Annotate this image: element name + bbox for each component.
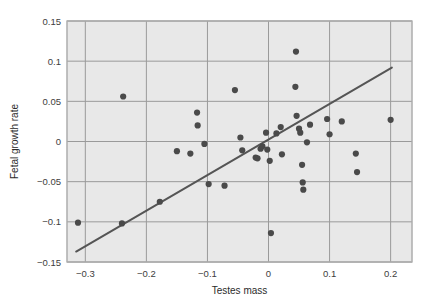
data-point [264, 146, 270, 152]
y-tick-label: 0.15 [43, 16, 62, 27]
y-tick-label: −0.05 [37, 176, 61, 187]
data-point [300, 187, 306, 193]
x-axis-title: Testes mass [212, 285, 268, 296]
data-point [157, 199, 163, 205]
data-point [120, 93, 126, 99]
y-tick-label: −0.15 [37, 257, 61, 268]
plot-area [67, 21, 412, 262]
data-point [326, 131, 332, 137]
x-tick-label: −0.1 [198, 268, 217, 279]
y-tick-label: 0.1 [48, 56, 61, 67]
data-point [194, 109, 200, 115]
data-point [353, 150, 359, 156]
data-point [206, 181, 212, 187]
data-point [324, 116, 330, 122]
x-tick-label: −0.2 [137, 268, 156, 279]
data-point [339, 118, 345, 124]
data-point [268, 230, 274, 236]
x-tick-label: −0.3 [76, 268, 95, 279]
data-point [299, 162, 305, 168]
x-tick-label: 0.1 [323, 268, 336, 279]
data-point [354, 169, 360, 175]
data-point [201, 141, 207, 147]
y-tick-label: 0.05 [43, 96, 62, 107]
data-point [304, 139, 310, 145]
data-point [174, 148, 180, 154]
data-point [187, 150, 193, 156]
data-point [292, 84, 298, 90]
data-point [297, 130, 303, 136]
data-point [239, 147, 245, 153]
data-point [237, 134, 243, 140]
data-point [267, 158, 273, 164]
data-point [300, 179, 306, 185]
y-axis-title: Fetal growth rate [9, 104, 20, 179]
data-point [293, 48, 299, 54]
data-point [195, 122, 201, 128]
y-tick-label: 0 [56, 136, 61, 147]
data-point [293, 113, 299, 119]
data-point [388, 117, 394, 123]
x-tick-label: 0 [266, 268, 271, 279]
y-axis-tick-labels: −0.15−0.1−0.0500.050.10.15 [37, 16, 61, 268]
x-axis-tick-labels: −0.3−0.2−0.100.10.2 [76, 268, 397, 279]
data-point [119, 220, 125, 226]
data-point [221, 183, 227, 189]
scatter-plot-figure: −0.3−0.2−0.100.10.2 −0.15−0.1−0.0500.050… [0, 0, 434, 308]
data-point [307, 122, 313, 128]
y-tick-label: −0.1 [42, 216, 61, 227]
data-point [263, 130, 269, 136]
data-point [254, 155, 260, 161]
data-point [232, 87, 238, 93]
chart-canvas: −0.3−0.2−0.100.10.2 −0.15−0.1−0.0500.050… [0, 0, 434, 308]
x-tick-label: 0.2 [384, 268, 397, 279]
data-point [273, 130, 279, 136]
data-point [279, 151, 285, 157]
data-point [75, 220, 81, 226]
data-point [278, 124, 284, 130]
